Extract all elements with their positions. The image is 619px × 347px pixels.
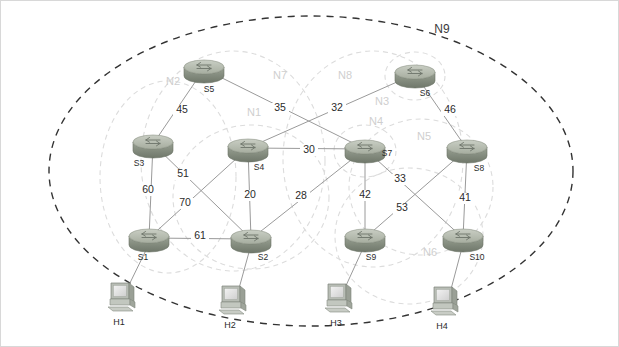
zone-labels-layer: N1N2N3N4N5N6N7N8N9 [166, 22, 450, 258]
host-label-h1: H1 [113, 317, 125, 327]
router-node-s8[interactable] [447, 140, 487, 163]
network-diagram-svg: S1S2S3S4S5S6S7S8S9S10 H1H2H3H4 453532304… [1, 1, 619, 347]
link-weight-s3-s2: 51 [177, 167, 189, 179]
router-node-s2[interactable] [231, 230, 271, 253]
router-label-s8: S8 [474, 163, 485, 173]
link-weight-s6-s8: 46 [444, 103, 456, 115]
zone-label-n3: N3 [375, 95, 389, 107]
link-weight-s2-s7: 28 [295, 189, 307, 201]
zone-label-n1: N1 [247, 106, 261, 118]
router-node-s1[interactable] [129, 229, 169, 252]
router-label-s10: S10 [469, 252, 484, 262]
host-label-h3: H3 [330, 318, 342, 328]
zone-label-n2: N2 [166, 75, 180, 87]
zone-label-n5: N5 [417, 130, 431, 142]
router-label-s5: S5 [204, 84, 215, 94]
host-node-h1[interactable] [108, 283, 135, 311]
host-node-h4[interactable] [431, 287, 458, 315]
hosts-layer: H1H2H3H4 [108, 283, 458, 331]
host-label-h4: H4 [436, 321, 448, 331]
router-node-s4[interactable] [228, 139, 268, 162]
router-node-s7[interactable] [345, 140, 385, 163]
router-label-s6: S6 [420, 88, 431, 98]
host-label-h2: H2 [224, 320, 236, 330]
link-weight-s1-s2: 61 [194, 229, 206, 241]
link-s4-s1 [149, 148, 248, 238]
zone-ellipse-n9 [49, 16, 573, 326]
router-node-s9[interactable] [345, 229, 385, 252]
host-node-h3[interactable] [325, 284, 352, 312]
link-weight-s8-s9: 53 [396, 201, 408, 213]
router-label-s2: S2 [258, 252, 269, 262]
zone-label-n7: N7 [273, 69, 287, 81]
link-weight-s4-s6: 32 [331, 101, 343, 113]
link-weight-s3-s1: 60 [142, 183, 154, 195]
router-node-s10[interactable] [443, 229, 483, 252]
router-node-s5[interactable] [184, 60, 224, 83]
link-weight-s8-s10: 41 [459, 191, 471, 203]
zone-label-n8: N8 [338, 69, 352, 81]
zone-label-n6: N6 [423, 246, 437, 258]
router-label-s1: S1 [138, 252, 149, 262]
router-label-s7: S7 [382, 148, 393, 158]
link-weight-s7-s10: 33 [394, 172, 406, 184]
router-label-s3: S3 [134, 158, 145, 168]
link-weight-s4-s1: 70 [179, 196, 191, 208]
link-weight-s7-s9: 42 [359, 188, 371, 200]
router-label-s9: S9 [366, 252, 377, 262]
host-node-h2[interactable] [219, 286, 246, 314]
zone-label-n9: N9 [434, 22, 450, 36]
link-weight-s5-s7: 35 [274, 101, 286, 113]
diagram-canvas: S1S2S3S4S5S6S7S8S9S10 H1H2H3H4 453532304… [0, 0, 619, 347]
router-node-s6[interactable] [395, 65, 435, 88]
link-weight-s4-s7: 30 [303, 143, 315, 155]
link-weight-s4-s2: 20 [244, 188, 256, 200]
host-links-layer [127, 244, 463, 293]
outer-zone-layer [49, 16, 573, 326]
router-node-s3[interactable] [133, 135, 173, 158]
link-weight-s3-s5: 45 [176, 103, 188, 115]
zone-label-n4: N4 [369, 115, 383, 127]
router-label-s4: S4 [254, 162, 265, 172]
